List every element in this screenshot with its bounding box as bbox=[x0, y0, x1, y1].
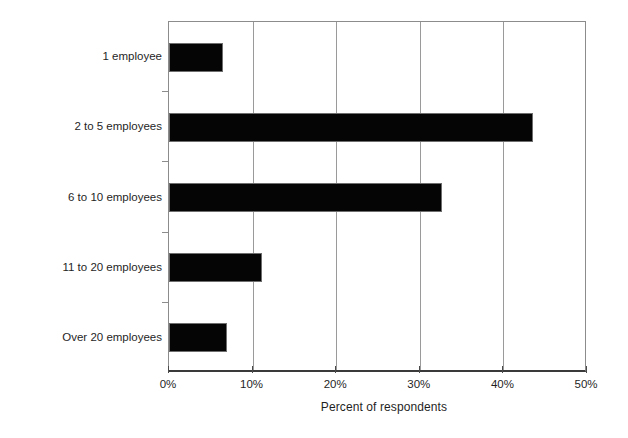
x-axis-title: Percent of respondents bbox=[0, 400, 628, 414]
y-axis-tick bbox=[162, 302, 168, 303]
x-axis-tick-label: 40% bbox=[491, 377, 514, 391]
bar bbox=[169, 183, 442, 212]
x-axis-tick-label: 30% bbox=[407, 377, 430, 391]
y-axis-tick bbox=[162, 161, 168, 162]
bar-row bbox=[169, 323, 585, 352]
bar-row bbox=[169, 253, 585, 282]
x-axis-tick-label: 50% bbox=[574, 377, 597, 391]
bar bbox=[169, 43, 223, 72]
y-axis-tick bbox=[162, 91, 168, 92]
y-axis-tick bbox=[162, 232, 168, 233]
bar bbox=[169, 323, 227, 352]
category-label: 6 to 10 employees bbox=[68, 190, 162, 204]
bar-row bbox=[169, 113, 585, 142]
x-axis-title-text: Percent of respondents bbox=[321, 400, 447, 414]
bar bbox=[169, 113, 533, 142]
plot-area bbox=[168, 21, 586, 372]
x-axis-tick bbox=[335, 366, 336, 373]
x-axis-tick bbox=[419, 366, 420, 373]
x-axis-tick-label: 0% bbox=[160, 377, 177, 391]
category-label: 1 employee bbox=[103, 49, 162, 63]
bar-row bbox=[169, 43, 585, 72]
x-axis-tick-label: 10% bbox=[240, 377, 263, 391]
bar-chart: 1 employee2 to 5 employees6 to 10 employ… bbox=[0, 0, 628, 438]
bars bbox=[169, 22, 585, 370]
category-label: 11 to 20 employees bbox=[62, 260, 162, 274]
x-axis-tick bbox=[168, 366, 169, 373]
x-axis-tick bbox=[502, 366, 503, 373]
category-label: Over 20 employees bbox=[62, 330, 162, 344]
x-axis-tick-label: 20% bbox=[324, 377, 347, 391]
category-label: 2 to 5 employees bbox=[74, 119, 162, 133]
x-axis-tick bbox=[586, 366, 587, 373]
bar-row bbox=[169, 183, 585, 212]
bar bbox=[169, 253, 262, 282]
x-axis-tick bbox=[252, 366, 253, 373]
